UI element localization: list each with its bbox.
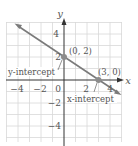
point-y-intercept	[61, 54, 67, 60]
tick-y-2: 2	[55, 52, 61, 62]
tick-y-neg2: −2	[48, 98, 61, 108]
tick-x-0: 0	[55, 84, 61, 94]
x-intercept-label: x-intercept	[67, 94, 114, 104]
axes	[6, 18, 124, 146]
tick-y-neg4: −4	[48, 121, 62, 131]
point-x-intercept	[96, 77, 102, 83]
y-axis-arrow-icon	[62, 18, 67, 25]
tick-x-neg4: −4	[10, 84, 24, 94]
tick-y-4: 4	[53, 29, 59, 39]
tick-x-2: 2	[83, 84, 89, 94]
tick-x-4: 4	[107, 84, 113, 94]
coordinate-graph: y x −4 −2 0 2 4 4 2 −2 −4 (0, 2) (3, 0) …	[0, 0, 138, 146]
point-label-3-0: (3, 0)	[98, 67, 121, 77]
point-label-0-2: (0, 2)	[69, 46, 92, 56]
y-intercept-label: y-intercept	[7, 67, 56, 77]
x-axis-label: x	[125, 75, 131, 86]
tick-x-neg2: −2	[33, 84, 46, 94]
x-intercept-pointer	[94, 83, 97, 92]
x-axis-arrow-icon	[117, 78, 124, 83]
y-axis-label: y	[56, 8, 63, 19]
